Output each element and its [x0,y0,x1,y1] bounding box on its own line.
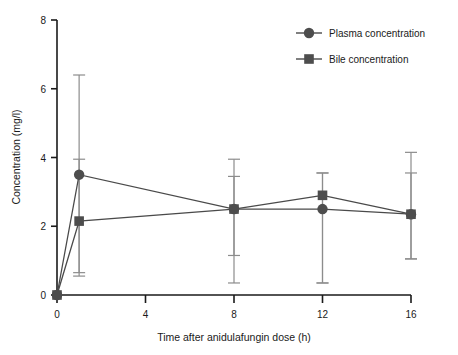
chart-legend: Plasma concentrationBile concentration [296,28,425,65]
circle-marker [317,204,327,214]
square-marker [229,204,239,214]
y-tick-label: 2 [40,221,46,232]
x-tick-label: 0 [54,309,60,320]
x-tick-label: 16 [405,309,417,320]
y-axis-title: Concentration (mg/l) [10,109,22,204]
x-axis-title: Time after anidulafungin dose (h) [157,331,311,343]
legend-label: Bile concentration [329,54,409,65]
y-tick-label: 6 [40,84,46,95]
error-bars [73,75,417,283]
square-marker [318,191,328,201]
y-axis-ticks: 02468 [40,15,57,301]
y-tick-label: 8 [40,15,46,26]
square-marker [406,209,416,219]
legend-label: Plasma concentration [329,28,425,39]
circle-marker [74,169,84,179]
square-marker [52,290,62,300]
x-tick-label: 8 [231,309,237,320]
x-tick-label: 4 [143,309,149,320]
y-tick-label: 4 [40,153,46,164]
legend-circle-marker [304,28,314,38]
x-tick-label: 12 [317,309,329,320]
square-marker [74,216,84,226]
x-axis-ticks: 0481216 [54,295,417,320]
y-tick-label: 0 [40,290,46,301]
concentration-time-plot: 02468 0481216 Time after anidulafungin d… [0,0,458,355]
chart-figure: 02468 0481216 Time after anidulafungin d… [0,0,458,355]
legend-square-marker [304,54,314,64]
